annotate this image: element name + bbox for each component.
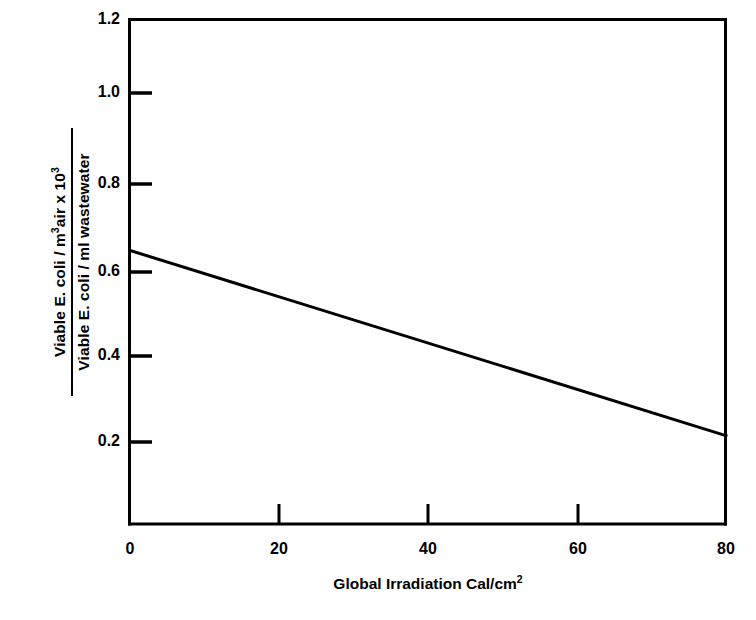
- data-line-series-0: [130, 250, 726, 435]
- axis-frame: [128, 18, 727, 526]
- y-tick-label-1_2: 1.2: [74, 10, 120, 28]
- y-label-numerator-mid: air x 10: [51, 173, 68, 227]
- chart-figure: 1.2 1.0 0.8 0.6 0.4 0.2 0 20 40 60 80 Vi…: [0, 0, 756, 620]
- x-tick-label-0: 0: [107, 540, 153, 558]
- y-tick-marks: [131, 93, 152, 442]
- x-tick-label-40: 40: [405, 540, 451, 558]
- y-label-numerator-sup2: 3: [49, 167, 61, 173]
- y-axis-label-denominator: Viable E. coli / ml wastewater: [73, 147, 95, 376]
- x-axis-label: Global Irradiation Cal/cm2: [128, 575, 728, 593]
- x-label-exponent: 2: [517, 573, 523, 585]
- y-axis-label: Viable E. coli / m3air x 103 Viable E. c…: [42, 52, 102, 472]
- x-label-text: Global Irradiation Cal/cm: [333, 575, 516, 592]
- y-label-numerator-pre: Viable E. coli / m: [51, 233, 68, 357]
- x-tick-label-80: 80: [703, 540, 749, 558]
- x-tick-label-60: 60: [555, 540, 601, 558]
- x-tick-label-20: 20: [256, 540, 302, 558]
- y-axis-label-numerator: Viable E. coli / m3air x 103: [49, 161, 71, 363]
- x-tick-marks: [279, 504, 578, 523]
- y-label-numerator-sup1: 3: [49, 227, 61, 233]
